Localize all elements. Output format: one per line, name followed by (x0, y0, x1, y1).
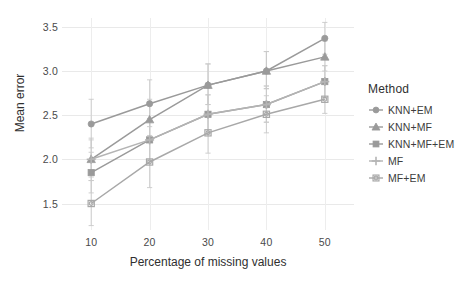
legend-item-knn-mf-em[interactable]: KNN+MF+EM (368, 136, 468, 151)
legend-item-knn-em[interactable]: KNN+EM (368, 102, 468, 117)
y-tick-label: 2.0 (24, 153, 58, 165)
legend-items: KNN+EMKNN+MFKNN+MF+EMMFMF+EM (368, 102, 468, 185)
y-tick-label: 2.5 (24, 109, 58, 121)
legend-item-label: MF (388, 155, 403, 167)
legend-item-label: KNN+MF+EM (388, 138, 454, 150)
legend-marker-icon (368, 154, 384, 168)
legend-marker-icon (368, 103, 384, 117)
plot-series-layer (62, 18, 354, 230)
y-tick-label: 1.5 (24, 198, 58, 210)
x-tick-label: 40 (260, 236, 272, 248)
legend-marker-icon (368, 120, 384, 134)
plot-panel (62, 18, 354, 230)
legend-title: Method (368, 82, 468, 96)
y-axis-title: Mean error (13, 53, 27, 153)
legend-item-label: KNN+EM (388, 104, 433, 116)
x-axis-ticks: 1020304050 (62, 236, 354, 252)
legend-item-label: MF+EM (388, 172, 426, 184)
x-tick-label: 10 (85, 236, 97, 248)
y-tick-label: 3.5 (24, 21, 58, 33)
legend-marker-icon (368, 171, 384, 185)
x-tick-label: 50 (319, 236, 331, 248)
chart-root: 1.52.02.53.03.5 1020304050 Percentage of… (0, 0, 471, 304)
legend-marker-icon (368, 137, 384, 151)
legend-item-knn-mf[interactable]: KNN+MF (368, 119, 468, 134)
legend: Method KNN+EMKNN+MFKNN+MF+EMMFMF+EM (368, 82, 468, 187)
x-tick-label: 30 (202, 236, 214, 248)
legend-item-mf[interactable]: MF (368, 153, 468, 168)
legend-item-label: KNN+MF (388, 121, 432, 133)
x-tick-label: 20 (144, 236, 156, 248)
x-axis-title: Percentage of missing values (62, 255, 354, 269)
y-tick-label: 3.0 (24, 65, 58, 77)
legend-item-mf-em[interactable]: MF+EM (368, 170, 468, 185)
